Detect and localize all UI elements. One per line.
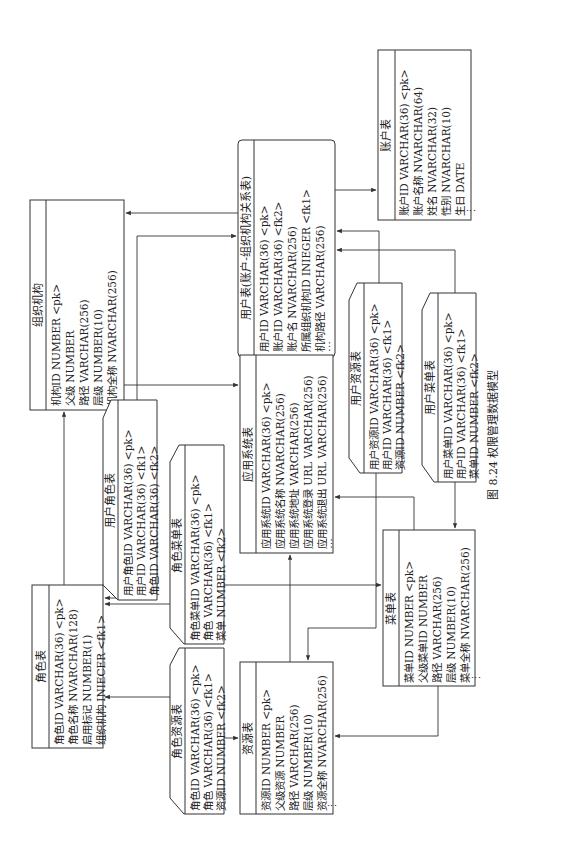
- table-title: 角色资源表: [170, 704, 184, 759]
- table-account[interactable]: 账户表 账户ID VARCHAR(36) <pk> 账户名称 NVARCHAR(…: [378, 50, 477, 220]
- table-user-role[interactable]: 用户角色表 用户角色ID VARCHAR(36) <pk> 用户ID VARCH…: [103, 400, 160, 600]
- table-row: 层级 NUMBER(10): [445, 586, 457, 683]
- table-title: 用户表(账户-组织机构关系表): [239, 176, 253, 320]
- table-title: 菜单表: [384, 592, 398, 625]
- table-role-menu[interactable]: 角色菜单表 角色菜单ID VARCHAR(36) <pk> 角色 VARCHAR…: [170, 445, 227, 644]
- table-row: 父级菜单ID NUMBER: [417, 574, 429, 683]
- line-userresource-user: [337, 231, 379, 283]
- table-title: 角色菜单表: [170, 518, 184, 573]
- table-row: 菜单 NUMBER <fk2>: [215, 528, 227, 641]
- table-row: 资源ID NUMBER <fk2>: [394, 344, 406, 470]
- table-user[interactable]: 用户表(账户-组织机构关系表) 用户ID VARCHAR(36) <pk> 账户…: [238, 140, 336, 357]
- table-org[interactable]: 组织机构 机构ID NUMBER <pk> 父级 NUMBER 路径 VARCH…: [30, 200, 129, 410]
- table-row: 应用系统登录 URL VARCHAR(256): [302, 375, 314, 549]
- table-role-resource[interactable]: 角色资源表 角色ID VARCHAR(36) <pk> 角色 VARCHAR(3…: [170, 648, 227, 814]
- table-row: 用户ID VARCHAR(36) <pk>: [258, 205, 270, 352]
- table-row: ⋮: [465, 205, 477, 216]
- table-title: 角色表: [34, 650, 48, 683]
- table-title: 用户角色表: [103, 473, 117, 528]
- table-title: 用户资源表: [349, 351, 363, 406]
- table-row: 所属组织机构ID INIEGER <fk1>: [300, 189, 312, 352]
- table-title: 应用系统表: [241, 427, 255, 482]
- table-row: 父级资源 NUMBER: [274, 714, 286, 811]
- table-row: 账户名 NVARCHAR(256): [286, 226, 298, 352]
- table-row: 性别 NVARCHAR(10): [440, 107, 452, 216]
- table-row: 角色ID VARCHAR(36) <fk2>: [148, 446, 160, 596]
- table-row: 姓名 NVARCHAR(32): [426, 107, 438, 216]
- table-row: 层级 NUMBER(10): [302, 714, 314, 811]
- table-row: 用户ID VARCHAR(36) <fk1>: [135, 446, 147, 596]
- table-row: 角色ID VARCHAR(36) <pk>: [53, 598, 65, 745]
- line-userrole-user: [137, 236, 236, 400]
- table-app[interactable]: 应用系统表 应用系统ID VARCHAR(36) <pk> 应用系统名称 NVA…: [240, 355, 338, 553]
- table-row: ⋯: [324, 341, 336, 352]
- table-row: ⋯: [326, 538, 338, 549]
- table-row: 用户菜单ID VARCHAR(36) <pk>: [442, 312, 454, 479]
- table-row: 角色名称 NVARCHAR(128): [67, 609, 79, 745]
- table-title: 账户表: [379, 119, 393, 152]
- table-user-menu[interactable]: 用户菜单表 用户菜单ID VARCHAR(36) <pk> 用户ID VARCH…: [422, 293, 480, 482]
- table-row: 资源全称 NVARCHAR(256): [316, 675, 328, 811]
- table-row: 角色 VARCHAR(36) <fk1>: [202, 673, 214, 811]
- table-row: 应用系统地址 VARCHAR(256): [288, 402, 300, 549]
- table-row: 资源ID NUMBER <pk>: [260, 689, 272, 811]
- table-row: 路径 VARCHAR(256): [431, 576, 443, 683]
- table-title: 用户菜单表: [423, 360, 437, 415]
- table-row: 资源ID NUMBER <fk2>: [215, 685, 227, 811]
- table-row: ⋮: [326, 800, 338, 811]
- table-row: 账户名称 NVARCHAR(64): [412, 87, 424, 216]
- table-user-resource[interactable]: 用户资源表 用户资源ID VARCHAR(36) <pk> 用户ID VARCH…: [349, 283, 406, 473]
- table-row: 父级 NUMBER: [64, 329, 76, 406]
- table-row: 机构路径 VARCHAR(256): [314, 225, 326, 352]
- table-row: 菜单全称 NVARCHAR(256): [459, 547, 471, 683]
- table-row: 路径 VARCHAR(256): [288, 704, 300, 811]
- table-row: 应用系统名称 NVARCHAR(256): [274, 393, 286, 549]
- table-row: 用户ID VARCHAR(36) <fk1>: [455, 329, 467, 479]
- table-row: 应用系统ID VARCHAR(36) <pk>: [260, 382, 272, 549]
- table-row: 用户角色ID VARCHAR(36) <pk>: [122, 429, 134, 596]
- table-title: 资源表: [241, 722, 255, 755]
- table-resource[interactable]: 资源表 资源ID NUMBER <pk> 父级资源 NUMBER 路径 VARC…: [240, 662, 338, 814]
- table-row: 启用标记 NUMBER(1): [81, 635, 93, 745]
- table-row: 机构全称 NVARCHAR(256): [106, 270, 118, 406]
- table-row: 机构ID NUMBER <pk>: [50, 284, 62, 406]
- table-row: 层级 NUMBER(10): [92, 309, 104, 406]
- table-menu[interactable]: 菜单表 菜单ID NUMBER <pk> 父级菜单ID NUMBER 路径 VA…: [383, 530, 482, 686]
- table-role[interactable]: 角色表 角色ID VARCHAR(36) <pk> 角色名称 NVARCHAR(…: [32, 585, 107, 748]
- table-row: 账户ID VARCHAR(36) <pk>: [398, 69, 410, 216]
- table-title: 组织机构: [31, 283, 45, 327]
- table-row: 应用系统退出 URL VARCHAR(256): [316, 375, 328, 549]
- line-menu-app: [335, 497, 414, 530]
- table-row: ⋮: [470, 672, 482, 683]
- table-row: 菜单ID NUMBER <fk2>: [468, 353, 480, 479]
- table-row: 账户ID VARCHAR(36) <fk2>: [272, 202, 284, 352]
- table-row: 组织机构 INIECER <fk1>: [95, 615, 107, 745]
- table-row: 路径 VARCHAR(256): [78, 299, 90, 406]
- figure-caption: 图 8.24 权限管理数据模型: [486, 370, 500, 501]
- table-row: 角色ID VARCHAR(36) <pk>: [189, 664, 201, 811]
- table-row: 用户资源ID VARCHAR(36) <pk>: [368, 303, 380, 470]
- table-row: 角色 VARCHAR(36) <fk1>: [202, 503, 214, 641]
- table-row: 用户ID VARCHAR(36) <fk1>: [381, 320, 393, 470]
- line-menu-resource: [335, 686, 438, 736]
- table-row: 菜单ID NUMBER <pk>: [403, 561, 415, 683]
- er-diagram: 账户表 账户ID VARCHAR(36) <pk> 账户名称 NVARCHAR(…: [0, 0, 572, 859]
- table-row: 角色菜单ID VARCHAR(36) <pk>: [189, 474, 201, 641]
